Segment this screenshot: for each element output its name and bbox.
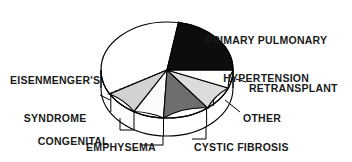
label-pph-line1: PRIMARY PULMONARY [205,34,327,47]
label-cystic-fibrosis: CYSTIC FIBROSIS [194,141,289,154]
label-eisenmengers-syndrome: EISENMENGER'S SYNDROME [10,49,100,149]
label-eisenmengers-line2: SYNDROME [10,112,100,125]
label-eisenmengers-line1: EISENMENGER'S [10,74,100,87]
pie-chart-figure: PRIMARY PULMONARY HYPERTENSION RETRANSPL… [0,0,352,162]
label-retransplant: RETRANSPLANT [249,82,338,95]
label-other: OTHER [243,112,281,125]
